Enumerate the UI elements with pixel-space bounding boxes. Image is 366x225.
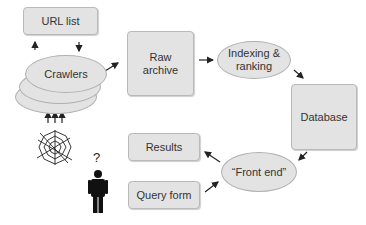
arrow-indexing-to-database	[294, 70, 303, 78]
query-form-label: Query form	[136, 189, 191, 202]
arrow-front-end-to-results	[205, 152, 220, 162]
crawlers-label: Crawlers	[44, 68, 87, 81]
raw-archive-node: Raw archive	[127, 31, 194, 96]
front-end-node: “Front end”	[221, 152, 297, 192]
arrow-query-form-to-front-end	[205, 182, 218, 192]
person-icon	[88, 170, 108, 213]
question-mark-icon: ?	[93, 150, 100, 165]
raw-archive-label: Raw archive	[143, 51, 178, 77]
database-label: Database	[300, 111, 347, 124]
url-list-label: URL list	[41, 15, 79, 28]
results-node: Results	[128, 133, 200, 161]
spider-web-icon	[37, 130, 72, 165]
indexing-ranking-label: Indexing & ranking	[228, 47, 280, 73]
front-end-label: “Front end”	[232, 166, 286, 179]
database-node: Database	[291, 84, 357, 150]
crawlers-node: Crawlers	[25, 55, 107, 93]
url-list-node: URL list	[23, 7, 98, 35]
indexing-ranking-node: Indexing & ranking	[217, 41, 291, 79]
arrow-crawlers-to-raw-archive	[105, 63, 118, 71]
query-form-node: Query form	[128, 181, 200, 209]
results-label: Results	[146, 141, 183, 154]
arrow-database-to-front-end	[299, 152, 307, 160]
